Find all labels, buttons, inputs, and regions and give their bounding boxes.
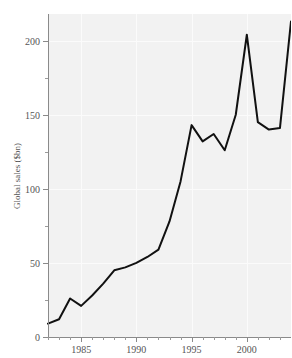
y-tick-label: 200 [25, 36, 40, 47]
y-tick-label: 150 [25, 110, 40, 121]
x-tick-label: 1990 [126, 344, 146, 355]
x-axis-ticks: 1985199019952000 [49, 337, 292, 355]
plot-panel [48, 14, 291, 337]
y-axis-title: Global sales ($bn) [12, 143, 22, 209]
y-axis-ticks: 050100150200 [25, 36, 48, 343]
y-tick-label: 100 [25, 184, 40, 195]
y-tick-label: 50 [30, 258, 40, 269]
x-tick-label: 2000 [237, 344, 257, 355]
chart-figure: 050100150200 1985199019952000 Global sal… [0, 0, 291, 358]
line-chart: 050100150200 1985199019952000 Global sal… [0, 0, 291, 358]
x-tick-label: 1995 [182, 344, 202, 355]
x-tick-label: 1985 [71, 344, 91, 355]
y-tick-label: 0 [35, 332, 40, 343]
